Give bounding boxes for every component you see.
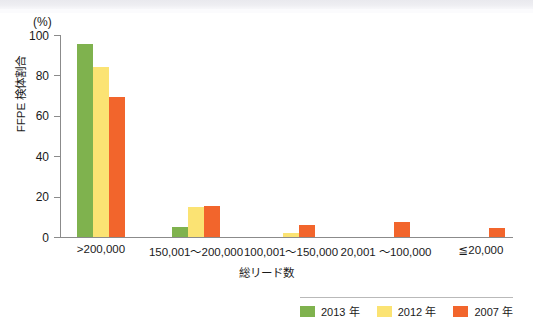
bar-slot [204, 35, 220, 237]
y-tick-label: 100 [29, 29, 49, 43]
bar-slot [489, 35, 505, 237]
x-category-label: 150,001〜200,000 [149, 243, 243, 259]
y-tick-mark [54, 237, 60, 238]
y-tick-label: 20 [36, 190, 49, 204]
legend-swatch [453, 306, 468, 317]
bar-group [361, 35, 411, 237]
x-category-label: 20,001 〜100,000 [341, 243, 432, 259]
bar-slot [172, 35, 188, 237]
y-tick-0: 0 [54, 237, 60, 238]
bar-slot [457, 35, 473, 237]
bar [77, 44, 93, 237]
bar-group [456, 35, 506, 237]
bar-slot [267, 35, 283, 237]
bar-slot [188, 35, 204, 237]
chart-figure: (%) FFPE 検体割合 020406080100 >200,000150,0… [0, 0, 533, 327]
bar-slot [77, 35, 93, 237]
y-axis-title: FFPE 検体割合 [12, 34, 28, 154]
bar [93, 67, 109, 237]
legend-swatch [300, 306, 315, 317]
bar [394, 222, 410, 237]
legend-item: 2013 年 [300, 303, 360, 319]
scan-artifact-band [0, 0, 533, 9]
legend-swatch [377, 306, 392, 317]
y-tick-label: 0 [42, 231, 49, 245]
bar [172, 227, 188, 237]
x-category-label: 100,001〜150,000 [244, 243, 338, 259]
bar-group [76, 35, 126, 237]
bar [204, 206, 220, 237]
bar-slot [109, 35, 125, 237]
bar-slot [394, 35, 410, 237]
chart-legend: 2013 年2012 年2007 年 [300, 303, 513, 319]
bar-slot [362, 35, 378, 237]
bar-slot [473, 35, 489, 237]
legend-divider [300, 297, 513, 298]
bar-slot [378, 35, 394, 237]
scan-artifact-band-secondary [0, 9, 533, 13]
bar [283, 233, 299, 237]
y-tick-label: 40 [36, 150, 49, 164]
bar-group [171, 35, 221, 237]
x-axis-title: 総リード数 [0, 264, 533, 280]
bar [109, 97, 125, 237]
y-tick-label: 60 [36, 109, 49, 123]
bar-slot [283, 35, 299, 237]
bar-group [266, 35, 316, 237]
bar-slot [93, 35, 109, 237]
legend-item: 2012 年 [377, 303, 437, 319]
bar [299, 225, 315, 237]
y-axis-unit-label: (%) [33, 15, 52, 29]
legend-item: 2007 年 [453, 303, 513, 319]
plot-area [60, 35, 513, 237]
x-category-label: >200,000 [77, 243, 125, 255]
legend-label: 2013 年 [321, 303, 360, 319]
bar [188, 207, 204, 237]
x-category-label: ≦20,000 [459, 243, 504, 257]
bar [489, 228, 505, 237]
bar-slot [299, 35, 315, 237]
legend-label: 2012 年 [398, 303, 437, 319]
y-tick-label: 80 [36, 69, 49, 83]
legend-label: 2007 年 [474, 303, 513, 319]
x-axis-line [60, 237, 513, 238]
